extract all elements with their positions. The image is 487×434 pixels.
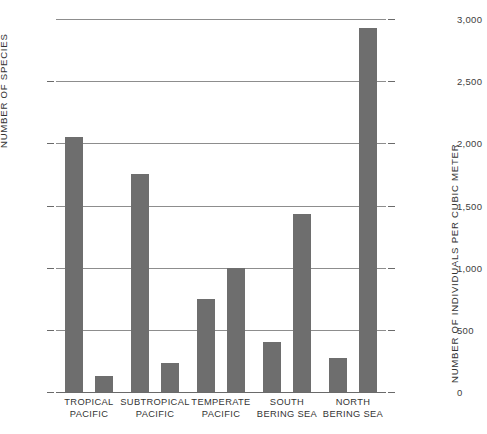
category-label: NORTHBERING SEA <box>312 397 394 420</box>
y-tick-right <box>388 143 395 144</box>
bar-species <box>197 299 215 392</box>
y-tick-right <box>388 268 395 269</box>
gridline <box>56 206 386 207</box>
y-tick-left <box>47 81 54 82</box>
bar-species <box>263 342 281 392</box>
bar-individuals <box>161 363 179 392</box>
y-tick-right <box>388 392 395 393</box>
y-axis-left-title: NUMBER OF SPECIES <box>0 33 9 148</box>
y-tick-label-right: 500 <box>457 324 487 335</box>
bar-individuals <box>227 268 245 392</box>
category-label-line: BERING SEA <box>312 409 394 421</box>
category-label-line: NORTH <box>312 397 394 409</box>
gridline <box>56 143 386 144</box>
gridline <box>56 330 386 331</box>
y-tick-left <box>47 206 54 207</box>
bar-individuals <box>359 28 377 392</box>
gridline <box>56 268 386 269</box>
bar-species <box>65 137 83 392</box>
y-tick-right <box>388 81 395 82</box>
y-tick-label-right: 3,000 <box>457 14 487 25</box>
y-tick-right <box>388 330 395 331</box>
plot-area: 020406080100 05001,0001,5002,0002,5003,0… <box>56 19 386 392</box>
y-tick-right <box>388 19 395 20</box>
y-tick-label-right: 0 <box>457 387 487 398</box>
y-tick-label-right: 1,500 <box>457 200 487 211</box>
gridline <box>56 81 386 82</box>
x-axis-baseline <box>56 392 386 393</box>
bar-species <box>131 174 149 392</box>
y-tick-label-right: 2,000 <box>457 138 487 149</box>
y-tick-left <box>47 268 54 269</box>
y-tick-right <box>388 206 395 207</box>
y-tick-left <box>47 392 54 393</box>
y-tick-label-right: 2,500 <box>457 76 487 87</box>
y-tick-left <box>47 143 54 144</box>
bar-species <box>329 358 347 392</box>
y-tick-label-right: 1,000 <box>457 262 487 273</box>
gridline <box>56 19 386 20</box>
bar-individuals <box>95 376 113 392</box>
bar-individuals <box>293 214 311 392</box>
y-tick-left <box>47 330 54 331</box>
